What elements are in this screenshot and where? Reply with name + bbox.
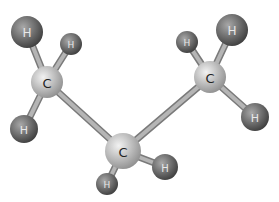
carbon-atom-C3: C [194, 61, 226, 93]
carbon-atom-C2: C [105, 133, 141, 169]
hydrogen-atom-H6: H [176, 31, 198, 53]
carbon-atom-C1: C [31, 66, 63, 98]
atom-label: H [227, 24, 236, 38]
atoms-layer: CCCHHHHHHHH [10, 14, 269, 195]
atom-label: H [22, 26, 31, 40]
atom-label: H [104, 180, 111, 190]
atom-label: C [118, 145, 127, 160]
propane-molecule-diagram: CCCHHHHHHHH [0, 0, 279, 202]
atom-label: C [205, 71, 214, 86]
atom-label: H [68, 40, 75, 50]
hydrogen-atom-H8: H [241, 103, 269, 131]
atom-label: H [251, 112, 259, 125]
atom-label: H [20, 124, 28, 137]
hydrogen-atom-H1: H [11, 16, 43, 48]
hydrogen-atom-H4: H [96, 173, 118, 195]
hydrogen-atom-H3: H [10, 115, 38, 143]
hydrogen-atom-H5: H [152, 154, 178, 180]
hydrogen-atom-H7: H [216, 14, 248, 46]
bonds-layer [24, 30, 255, 184]
hydrogen-atom-H2: H [60, 33, 82, 55]
atom-label: H [184, 38, 191, 48]
atom-label: H [161, 163, 169, 174]
atom-label: C [42, 76, 51, 91]
